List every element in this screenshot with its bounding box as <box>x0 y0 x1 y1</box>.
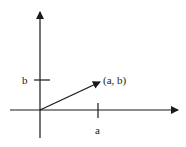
vector-diagram: b a (a, b) <box>0 0 186 147</box>
vector-arrow <box>40 82 100 110</box>
y-tick-label: b <box>22 74 28 86</box>
point-label: (a, b) <box>103 74 127 87</box>
x-tick-label: a <box>95 124 100 136</box>
